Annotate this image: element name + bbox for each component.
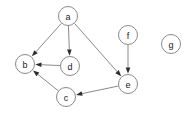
node-label-b: b [22, 60, 27, 70]
nodes-layer: abdcefg [16, 7, 181, 107]
edge-c-to-b [38, 74, 58, 90]
arrowhead-d-to-b [35, 62, 41, 67]
node-e[interactable]: e [119, 75, 138, 94]
node-c[interactable]: c [57, 88, 76, 107]
arrowhead-f-to-e [126, 68, 131, 74]
node-label-g: g [168, 40, 173, 50]
edge-d-to-b [41, 65, 60, 66]
node-label-e: e [125, 80, 130, 90]
node-f[interactable]: f [119, 26, 138, 45]
edges-layer [32, 23, 130, 95]
node-g[interactable]: g [162, 35, 181, 54]
node-b[interactable]: b [16, 55, 35, 74]
node-d[interactable]: d [61, 57, 80, 76]
edge-a-to-e [75, 24, 117, 72]
node-label-c: c [64, 93, 69, 103]
arrowhead-e-to-c [76, 91, 83, 96]
arrowhead-a-to-d [67, 49, 72, 55]
edge-e-to-c [82, 86, 118, 94]
node-label-a: a [65, 12, 70, 22]
directed-graph-diagram: abdcefg [0, 0, 194, 115]
node-a[interactable]: a [59, 7, 78, 26]
node-label-d: d [67, 62, 72, 72]
edge-a-to-d [68, 26, 69, 50]
edge-a-to-b [36, 23, 61, 51]
